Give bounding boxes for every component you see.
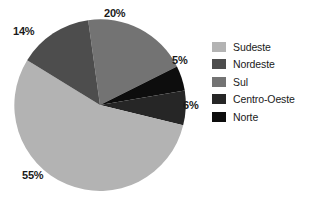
slice-label-sudeste: 55% bbox=[22, 169, 43, 181]
legend-label: Centro-Oeste bbox=[233, 93, 295, 105]
slice-label-centro-oeste: 6% bbox=[183, 99, 199, 111]
legend-item-norte[interactable]: Norte bbox=[212, 108, 313, 126]
legend-item-centro-oeste[interactable]: Centro-Oeste bbox=[212, 91, 313, 109]
pie-chart-figure: 20% 14% 5% 6% 55% Sudeste Nordeste Sul C… bbox=[0, 0, 313, 201]
legend-label: Sul bbox=[233, 76, 248, 88]
legend-item-nordeste[interactable]: Nordeste bbox=[212, 56, 313, 74]
legend-swatch-icon bbox=[212, 77, 226, 87]
legend-swatch-icon bbox=[212, 94, 226, 104]
legend-label: Norte bbox=[233, 111, 258, 123]
legend-swatch-icon bbox=[212, 112, 226, 122]
slice-label-nordeste: 14% bbox=[13, 25, 34, 37]
legend-label: Sudeste bbox=[233, 41, 271, 53]
slice-label-sul: 20% bbox=[104, 7, 125, 19]
slice-label-norte: 5% bbox=[172, 54, 188, 66]
legend-swatch-icon bbox=[212, 42, 226, 52]
chart-plot-area: 20% 14% 5% 6% 55% bbox=[0, 0, 215, 201]
pie-slices bbox=[14, 19, 186, 191]
legend-swatch-icon bbox=[212, 59, 226, 69]
legend-label: Nordeste bbox=[233, 58, 275, 70]
legend-item-sul[interactable]: Sul bbox=[212, 73, 313, 91]
legend-item-sudeste[interactable]: Sudeste bbox=[212, 38, 313, 56]
chart-legend: Sudeste Nordeste Sul Centro-Oeste Norte bbox=[212, 38, 313, 126]
